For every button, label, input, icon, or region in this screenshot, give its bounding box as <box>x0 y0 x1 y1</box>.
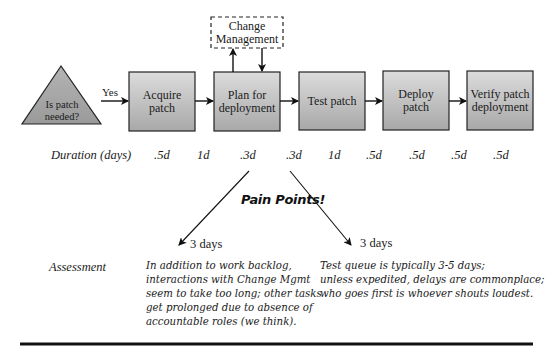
pain-points-title: Pain Points! <box>241 192 325 207</box>
note-line: seem to take too long; other tasks <box>146 287 322 301</box>
duration-value: .5d <box>154 148 170 163</box>
duration-value: 1d <box>328 148 341 163</box>
step-label-line1: Plan for <box>228 89 266 102</box>
note-line: get prolonged due to absence of <box>146 301 322 315</box>
step-label-line2: deployment <box>219 102 276 115</box>
step-label-deploy: Deploy patch <box>383 71 449 130</box>
duration-value: .5d <box>451 148 467 163</box>
pain-right-days: 3 days <box>360 236 392 251</box>
duration-value: .5d <box>493 148 509 163</box>
yes-label: Yes <box>96 86 124 99</box>
step-label-line1: Verify patch <box>471 88 530 101</box>
duration-label: Duration (days) <box>51 148 131 163</box>
step-label-line1: Test patch <box>308 95 357 108</box>
note-line: unless expedited, delays are commonplace… <box>320 273 545 287</box>
step-label-plan: Plan for deployment <box>214 72 280 131</box>
pain-right-note: Test queue is typically 3-5 days; unless… <box>320 259 545 301</box>
note-line: In addition to work backlog, <box>146 259 322 273</box>
change-management-line1: Change <box>229 20 266 33</box>
step-label-line1: Deploy <box>398 88 433 101</box>
change-management-line2: Management <box>216 33 279 46</box>
duration-value: .3d <box>286 148 302 163</box>
change-management-label: Change Management <box>211 17 283 48</box>
decision-label: Is patch needed? <box>36 99 88 123</box>
note-line: interactions with Change Mgmt <box>146 273 322 287</box>
step-label-acquire: Acquire patch <box>129 72 195 131</box>
note-line: who goes first is whoever shouts loudest… <box>320 287 545 301</box>
step-label-line1: Acquire <box>143 89 182 102</box>
duration-value: .5d <box>366 148 382 163</box>
note-line: accountable roles (we think). <box>146 315 322 329</box>
duration-value: 1d <box>197 148 210 163</box>
duration-value: .5d <box>409 148 425 163</box>
pain-arrow-left <box>179 171 249 245</box>
note-line: Test queue is typically 3-5 days; <box>320 259 545 273</box>
step-label-test: Test patch <box>299 72 365 130</box>
pain-arrow-right <box>290 171 351 245</box>
assessment-label: Assessment <box>49 260 106 275</box>
decision-label-line2: needed? <box>36 111 88 123</box>
step-label-line2: patch <box>149 102 175 115</box>
decision-label-line1: Is patch <box>36 99 88 111</box>
duration-value: .3d <box>240 148 256 163</box>
pain-left-note: In addition to work backlog, interaction… <box>146 259 322 329</box>
step-label-line2: patch <box>403 101 429 114</box>
step-label-verify: Verify patch deployment <box>467 71 533 130</box>
step-label-line2: deployment <box>472 101 529 114</box>
pain-left-days: 3 days <box>190 237 222 252</box>
